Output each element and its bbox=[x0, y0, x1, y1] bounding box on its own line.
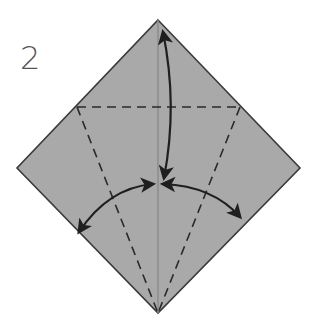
origami-diagram bbox=[0, 0, 317, 320]
